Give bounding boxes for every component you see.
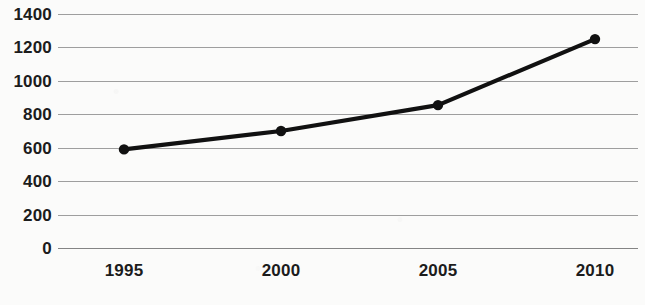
series-markers (119, 34, 600, 155)
line-chart: 1400120010008006004002000 19952000200520… (0, 0, 645, 305)
chart-screenshot: 1400120010008006004002000 19952000200520… (0, 0, 645, 305)
series-layer (0, 0, 645, 305)
series-line-0 (124, 39, 595, 149)
data-point-1995 (119, 144, 129, 154)
data-point-2005 (433, 100, 443, 110)
data-point-2000 (276, 126, 286, 136)
data-point-2010 (590, 34, 600, 44)
